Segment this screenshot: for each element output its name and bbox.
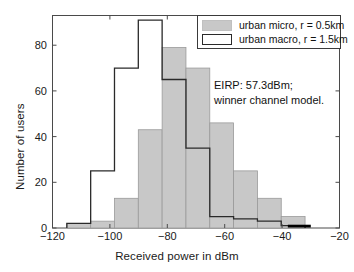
x-tick-label: −40	[273, 230, 292, 242]
legend-swatch-macro	[202, 34, 232, 45]
annotation-line-1: EIRP: 57.3dBm;	[214, 78, 324, 93]
legend-item-urban-micro: urban micro, r = 0.5km	[202, 19, 344, 32]
legend-item-urban-macro: urban macro, r = 1.5km	[202, 33, 348, 46]
y-tick-label: 0	[22, 222, 47, 234]
bar-micro	[138, 130, 162, 228]
y-tick-label: 40	[22, 131, 47, 143]
x-tick-label: −60	[215, 230, 234, 242]
histogram-figure: urban micro, r = 0.5km urban macro, r = …	[0, 0, 354, 272]
x-tick-label: −20	[330, 230, 349, 242]
legend-label-macro: urban macro, r = 1.5km	[239, 34, 348, 45]
bar-micro	[162, 47, 186, 228]
x-axis-label: Received power in dBm	[0, 250, 354, 262]
x-tick-label: −80	[158, 230, 177, 242]
legend-label-micro: urban micro, r = 0.5km	[239, 20, 344, 31]
y-tick-label: 60	[22, 85, 47, 97]
bar-micro	[91, 221, 115, 228]
black-bar-marker	[288, 225, 311, 228]
annotation-line-2: winner channel model.	[214, 93, 324, 108]
bar-micro	[114, 198, 138, 228]
bar-micro	[210, 123, 234, 228]
x-tick-label: −100	[98, 230, 123, 242]
legend: urban micro, r = 0.5km urban macro, r = …	[197, 15, 341, 49]
y-tick-label: 20	[22, 176, 47, 188]
black-bar-marker	[288, 225, 311, 228]
y-tick-label: 80	[22, 39, 47, 51]
chart-annotation: EIRP: 57.3dBm; winner channel model.	[214, 78, 324, 108]
legend-swatch-micro	[202, 20, 232, 31]
bar-micro	[67, 223, 91, 228]
bar-micro	[257, 198, 281, 228]
